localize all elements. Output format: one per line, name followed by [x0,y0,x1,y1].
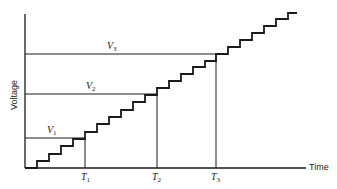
t1-subscript: 1 [87,176,91,184]
t1-label: T1 [81,171,90,184]
v1-subscript: 1 [53,129,57,137]
v2-label: V2 [86,80,96,93]
staircase-diagram [0,0,337,189]
t2-subscript: 2 [158,176,162,184]
v3-subscript: 3 [113,45,117,53]
t3-subscript: 3 [217,176,221,184]
v2-subscript: 2 [92,85,96,93]
y-axis-label: Voltage [9,77,19,113]
t3-label: T3 [211,171,220,184]
t2-label: T2 [152,171,161,184]
staircase-waveform [25,13,297,168]
v3-label: V3 [107,40,117,53]
v1-label: V1 [47,124,57,137]
x-axis-label: Time [309,162,329,172]
